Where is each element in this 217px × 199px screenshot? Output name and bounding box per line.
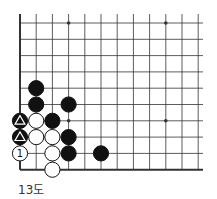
black-stone	[93, 146, 108, 161]
star-point	[164, 119, 168, 123]
black-stone	[29, 97, 44, 112]
star-point	[164, 21, 168, 25]
black-stone	[61, 146, 76, 161]
move-number-label: 1	[17, 148, 23, 159]
star-point	[67, 21, 71, 25]
white-stone	[29, 113, 44, 128]
white-stone	[45, 146, 60, 161]
diagram-caption: 13도	[18, 180, 44, 197]
black-stone	[45, 113, 60, 128]
white-stone	[45, 130, 60, 145]
black-stone	[61, 130, 76, 145]
black-stone	[61, 97, 76, 112]
go-board: 1	[0, 0, 217, 180]
white-stone	[29, 130, 44, 145]
white-stone	[45, 162, 60, 177]
black-stone	[29, 81, 44, 96]
star-point	[67, 119, 71, 123]
